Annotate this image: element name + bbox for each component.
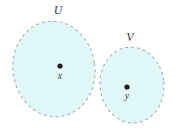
set-u-region <box>7 16 102 122</box>
point-y-marker <box>124 84 129 89</box>
point-y-label: y <box>124 90 130 101</box>
set-diagram-figure: U V x y <box>0 0 178 134</box>
point-x-marker <box>57 63 62 68</box>
set-v-label: V <box>126 30 135 44</box>
set-v-region <box>96 44 168 126</box>
point-x-label: x <box>57 70 63 81</box>
set-u-label: U <box>54 3 64 17</box>
diagram-canvas: U V x y <box>0 0 178 134</box>
